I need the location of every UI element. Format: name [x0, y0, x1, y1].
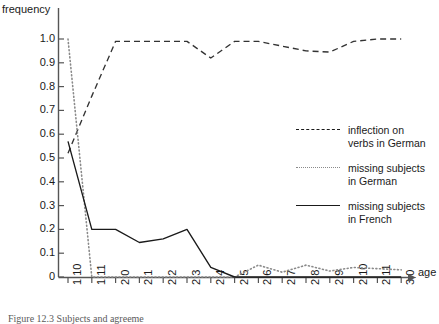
legend-swatch-solid	[296, 205, 340, 208]
legend-swatch-dotted	[296, 167, 340, 170]
legend-item: missing subjectsin French	[296, 200, 436, 225]
legend-swatch-dashed	[296, 129, 340, 132]
legend-item: missing subjectsin German	[296, 162, 436, 187]
chart-legend: inflection onverbs in Germanmissing subj…	[296, 124, 436, 238]
legend-label: missing subjectsin French	[348, 200, 436, 225]
legend-label: inflection onverbs in German	[348, 124, 436, 149]
legend-label-line1: missing subjects	[348, 162, 436, 175]
legend-label-line2: in German	[348, 175, 436, 188]
figure-caption: Figure 12.3 Subjects and agreeme	[8, 313, 144, 324]
legend-label-line1: inflection on	[348, 124, 436, 137]
legend-label-line2: verbs in German	[348, 137, 436, 150]
legend-label-line2: in French	[348, 213, 436, 226]
legend-item: inflection onverbs in German	[296, 124, 436, 149]
legend-label-line1: missing subjects	[348, 200, 436, 213]
x-axis-arrow	[408, 274, 416, 281]
legend-label: missing subjectsin German	[348, 162, 436, 187]
